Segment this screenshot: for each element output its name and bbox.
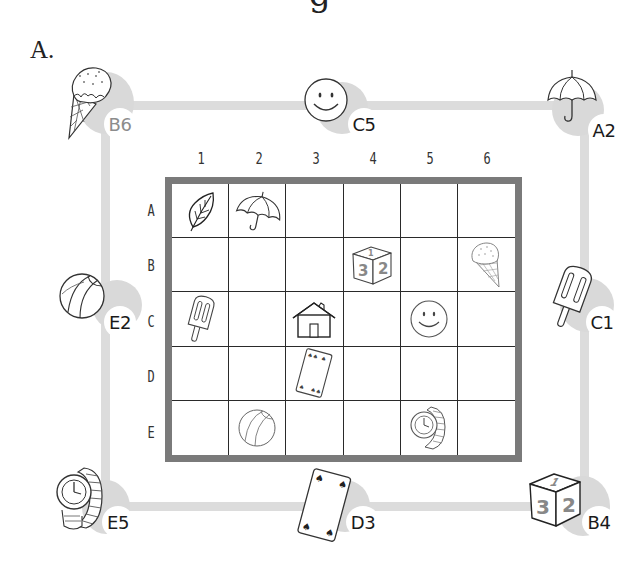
cell-A2 [229,184,286,238]
cell-D4 [344,347,401,401]
column-header-6: 6 [479,150,495,168]
label-left-middle: E2 [104,306,136,338]
svg-text:3: 3 [536,495,550,519]
dice-icon: 1 3 2 [350,244,394,286]
cell-D1 [172,347,229,401]
cell-E1 [172,401,229,455]
cell-C3 [286,292,343,346]
label-top-left: B6 [104,108,136,140]
svg-text:3: 3 [358,262,368,280]
beach-ball-icon [58,272,106,320]
cell-C2 [229,292,286,346]
svg-text:2: 2 [562,493,576,517]
leaf-icon [185,191,215,231]
cell-C6 [458,292,515,346]
cell-E5 [401,401,458,455]
column-header-3: 3 [308,150,324,168]
wristwatch-icon [56,466,106,532]
cell-A3 [286,184,343,238]
cell-A6 [458,184,515,238]
smiley-icon [409,299,449,339]
cell-D6 [458,347,515,401]
house-icon [291,300,337,338]
cell-A1 [172,184,229,238]
row-header-E: E [143,424,159,442]
label-top-center: C5 [348,108,380,140]
svg-text:1: 1 [368,249,374,258]
cell-A4 [344,184,401,238]
label-bottom-left: E5 [102,506,134,538]
dice-icon: 1 3 2 [526,470,584,528]
popsicle-icon [185,294,215,344]
cell-B6 [458,238,515,292]
cell-D3: ♠♠♠ ♠♠♠ [286,347,343,401]
cell-C5 [401,292,458,346]
row-header-B: B [143,257,159,275]
column-header-2: 2 [251,150,267,168]
cell-E4 [344,401,401,455]
part-label: A. [30,36,54,64]
cell-D2 [229,347,286,401]
cell-B4: 1 3 2 [344,238,401,292]
wristwatch-icon [409,405,449,451]
cell-E3 [286,401,343,455]
coordinate-grid-board: 1 3 2 [165,177,522,462]
cell-B2 [229,238,286,292]
cell-C1 [172,292,229,346]
cell-A5 [401,184,458,238]
row-header-D: D [143,368,159,386]
label-right-middle: C1 [586,306,618,338]
cell-B1 [172,238,229,292]
playing-card-icon: ♠♠♠ ♠♠♠ [293,349,335,397]
row-header-A: A [143,202,159,220]
umbrella-icon [546,70,598,124]
row-header-C: C [143,313,159,331]
label-bottom-center: D3 [346,506,380,538]
svg-text:2: 2 [378,260,388,278]
column-header-1: 1 [193,150,209,168]
column-header-5: 5 [422,150,438,168]
cell-B5 [401,238,458,292]
cell-E6 [458,401,515,455]
ice-cream-icon [469,241,503,289]
coordinate-grid: 1 3 2 [172,184,515,455]
page-heading-partial: g [0,0,640,14]
playing-card-icon: ♠♠ ♠♠ [296,468,352,544]
label-top-right: A2 [588,114,620,146]
label-bottom-right: B4 [582,506,616,538]
cell-B3 [286,238,343,292]
cell-D5 [401,347,458,401]
beach-ball-icon [237,408,277,448]
smiley-icon [304,78,348,122]
umbrella-icon [233,191,281,231]
column-header-4: 4 [365,150,381,168]
cell-C4 [344,292,401,346]
cell-E2 [229,401,286,455]
